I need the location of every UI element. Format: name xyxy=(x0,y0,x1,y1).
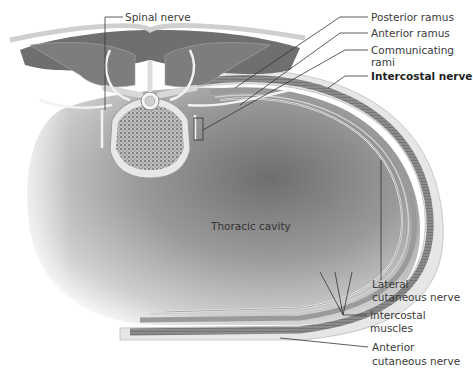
label-lateral-cutaneous-1: Lateral xyxy=(372,278,409,290)
label-thoracic-cavity: Thoracic cavity xyxy=(211,220,291,232)
label-communicating-rami-2: rami xyxy=(371,56,395,68)
label-intercostal-muscles-1: Intercostal xyxy=(370,309,426,321)
label-intercostal-nerve: Intercostal nerve xyxy=(371,70,473,82)
label-anterior-ramus: Anterior ramus xyxy=(371,27,450,39)
label-communicating-rami-1: Communicating xyxy=(371,44,454,56)
label-spinal-nerve: Spinal nerve xyxy=(125,11,191,23)
label-posterior-ramus: Posterior ramus xyxy=(371,11,454,23)
label-anterior-cutaneous-2: cutaneous nerve xyxy=(372,355,460,367)
label-intercostal-muscles-2: muscles xyxy=(370,322,413,334)
label-lateral-cutaneous-2: cutaneous nerve xyxy=(372,291,460,303)
label-anterior-cutaneous-1: Anterior xyxy=(372,341,414,353)
